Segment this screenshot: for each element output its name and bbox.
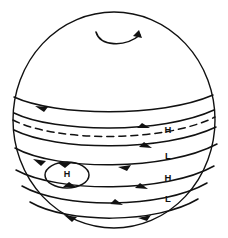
oval-vortex: H xyxy=(45,162,89,188)
oval-vortex-label: H xyxy=(64,169,71,179)
jet-band-3 xyxy=(14,127,216,148)
polar-arc-arrowhead-icon xyxy=(133,30,142,38)
band-label-l-2: L xyxy=(165,193,171,204)
jet-band-4 xyxy=(15,144,217,171)
band-label-h-1: H xyxy=(165,124,172,135)
jet-band-1-arrowhead-west-icon xyxy=(35,106,48,112)
jet-band-2-path xyxy=(14,110,214,128)
jet-band-3-path xyxy=(14,127,216,146)
polar-arc-path xyxy=(96,32,140,44)
planet-diagram-canvas: H H L H L xyxy=(0,0,228,238)
band-label-h-2: H xyxy=(165,172,172,183)
jet-band-4-arrowhead-west-2-icon xyxy=(118,165,131,171)
jet-band-4-arrowhead-west-icon xyxy=(33,159,46,166)
band-label-l-1: L xyxy=(165,150,171,161)
oval-vortex-arrowhead-top-icon xyxy=(58,163,71,168)
jet-band-1 xyxy=(14,95,213,112)
planet-circulation-diagram: H H L H L xyxy=(0,0,228,238)
polar-circulation-arc xyxy=(96,30,142,44)
jet-band-2 xyxy=(14,110,214,128)
